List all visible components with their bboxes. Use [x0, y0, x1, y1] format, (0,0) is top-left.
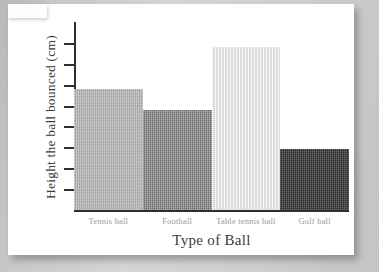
category-label-tennis-ball: Tennis ball [74, 216, 143, 226]
bar-golf-ball [280, 149, 349, 210]
bar-football [143, 110, 212, 210]
category-label-table-tennis-ball: Table tennis ball [212, 216, 281, 226]
bar-fill [280, 149, 349, 210]
category-label-golf-ball: Golf ball [280, 216, 349, 226]
y-axis-title: Height the ball bounced (cm) [43, 12, 59, 222]
corner-paper-patch [8, 4, 47, 18]
bar-fill [74, 89, 143, 210]
x-axis-title: Type of Ball [74, 232, 349, 249]
bar-table-tennis-ball [212, 47, 281, 210]
bar-chart: Tennis ballFootballTable tennis ballGolf… [8, 4, 379, 272]
bar-tennis-ball [74, 89, 143, 210]
bar-fill [212, 47, 281, 210]
scanned-page: Tennis ballFootballTable tennis ballGolf… [8, 4, 354, 255]
bar-fill [143, 110, 212, 210]
category-label-football: Football [143, 216, 212, 226]
